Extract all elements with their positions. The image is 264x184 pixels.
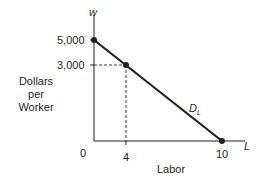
x-axis-title: Labor bbox=[157, 163, 185, 175]
point-4-3000 bbox=[123, 62, 129, 68]
curve-label-main: D bbox=[189, 102, 197, 114]
y-axis-title: Dollars per Worker bbox=[8, 75, 64, 114]
y-tick-label-3000: 3,000 bbox=[57, 59, 85, 71]
y-axis-symbol: w bbox=[89, 6, 97, 18]
point-0-5000 bbox=[91, 37, 97, 43]
curve-label-sub: L bbox=[197, 109, 201, 116]
y-axis-title-line3: Worker bbox=[8, 101, 64, 114]
origin-label: 0 bbox=[80, 147, 86, 159]
x-axis-symbol: L bbox=[244, 140, 250, 152]
labor-demand-chart: w L 5,000 3,000 Dollars per Worker 0 4 1… bbox=[0, 0, 264, 184]
y-tick-label-5000: 5,000 bbox=[57, 34, 85, 46]
point-10-0 bbox=[219, 138, 225, 144]
x-tick-label-10: 10 bbox=[216, 148, 228, 160]
labor-demand-curve bbox=[94, 40, 222, 141]
y-axis-title-line1: Dollars bbox=[8, 75, 64, 88]
curve-label: DL bbox=[189, 102, 201, 119]
x-tick-label-4: 4 bbox=[123, 151, 129, 163]
y-axis-title-line2: per bbox=[8, 88, 64, 101]
